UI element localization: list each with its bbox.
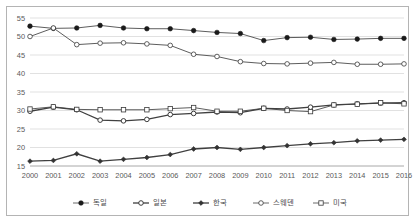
data-point-marker bbox=[355, 102, 359, 106]
y-axis-tick-label: 40 bbox=[17, 69, 25, 78]
data-point-marker bbox=[308, 109, 312, 113]
data-point-marker bbox=[402, 62, 407, 67]
legend-label: 스웨덴 bbox=[273, 198, 294, 207]
x-axis-tick-label: 2004 bbox=[115, 171, 131, 180]
x-axis-tick-label: 2009 bbox=[232, 171, 248, 180]
data-point-marker bbox=[262, 106, 266, 110]
legend-item-미국[interactable]: 미국 bbox=[313, 198, 347, 207]
data-point-marker bbox=[28, 107, 32, 111]
x-axis-tick-label: 2014 bbox=[349, 171, 365, 180]
data-point-marker bbox=[402, 36, 407, 41]
data-point-marker bbox=[74, 151, 79, 156]
data-point-marker bbox=[308, 105, 313, 110]
y-axis-tick-label: 15 bbox=[17, 162, 25, 171]
legend-item-스웨덴[interactable]: 스웨덴 bbox=[253, 198, 294, 207]
legend-item-독일[interactable]: 독일 bbox=[73, 198, 107, 207]
data-point-marker bbox=[168, 43, 173, 48]
data-point-marker bbox=[402, 137, 407, 142]
x-axis-tick-label: 2005 bbox=[139, 171, 155, 180]
data-point-marker bbox=[98, 23, 103, 28]
data-point-marker bbox=[139, 201, 144, 206]
data-point-marker bbox=[215, 109, 219, 113]
data-point-marker bbox=[51, 158, 56, 163]
data-point-marker bbox=[28, 159, 33, 164]
data-point-marker bbox=[28, 34, 33, 39]
data-point-marker bbox=[98, 41, 103, 46]
data-point-marker bbox=[145, 117, 150, 122]
x-axis-tick-label: 2013 bbox=[326, 171, 342, 180]
data-point-marker bbox=[238, 109, 242, 113]
data-point-marker bbox=[215, 54, 220, 59]
data-point-marker bbox=[378, 62, 383, 67]
line-chart-plot: 1520253035404550552000200120022003200420… bbox=[0, 0, 415, 222]
data-point-marker bbox=[121, 108, 125, 112]
legend-item-일본[interactable]: 일본 bbox=[133, 198, 167, 207]
data-point-marker bbox=[355, 37, 360, 42]
data-point-marker bbox=[98, 159, 103, 164]
data-point-marker bbox=[402, 102, 406, 106]
x-axis-tick-label: 2016 bbox=[396, 171, 412, 180]
data-point-marker bbox=[144, 155, 149, 160]
legend-label: 미국 bbox=[333, 198, 347, 207]
data-point-marker bbox=[261, 145, 266, 150]
data-point-marker bbox=[378, 101, 382, 105]
data-point-marker bbox=[285, 62, 290, 67]
data-point-marker bbox=[261, 38, 266, 43]
data-point-marker bbox=[28, 24, 33, 29]
x-axis-tick-label: 2006 bbox=[162, 171, 178, 180]
data-point-marker bbox=[121, 40, 126, 45]
data-point-marker bbox=[332, 60, 337, 65]
data-point-marker bbox=[191, 28, 196, 33]
y-axis-tick-label: 25 bbox=[17, 125, 25, 134]
y-axis-tick-label: 50 bbox=[17, 32, 25, 41]
data-point-marker bbox=[168, 106, 172, 110]
legend-label: 독일 bbox=[93, 198, 107, 207]
legend-label: 한국 bbox=[213, 198, 227, 207]
x-axis-tick-label: 2015 bbox=[372, 171, 388, 180]
data-point-marker bbox=[168, 112, 173, 117]
legend-item-한국[interactable]: 한국 bbox=[193, 198, 227, 207]
data-point-marker bbox=[238, 59, 243, 64]
data-point-marker bbox=[332, 103, 336, 107]
data-point-marker bbox=[238, 31, 243, 36]
x-axis-tick-label: 2000 bbox=[22, 171, 38, 180]
data-point-marker bbox=[145, 26, 150, 31]
data-point-marker bbox=[168, 152, 173, 157]
x-axis-tick-label: 2001 bbox=[45, 171, 61, 180]
x-axis-tick-label: 2003 bbox=[92, 171, 108, 180]
data-point-marker bbox=[168, 26, 173, 31]
data-point-marker bbox=[98, 108, 102, 112]
x-axis-tick-label: 2010 bbox=[256, 171, 272, 180]
chart-container: 1520253035404550552000200120022003200420… bbox=[0, 0, 415, 222]
data-point-marker bbox=[51, 26, 56, 31]
data-point-marker bbox=[355, 138, 360, 143]
x-axis-tick-label: 2012 bbox=[302, 171, 318, 180]
series-독일 bbox=[28, 23, 407, 43]
data-point-marker bbox=[285, 108, 289, 112]
data-point-marker bbox=[79, 201, 84, 206]
data-point-marker bbox=[121, 26, 126, 31]
data-point-marker bbox=[145, 108, 149, 112]
x-axis-tick-label: 2007 bbox=[185, 171, 201, 180]
data-point-marker bbox=[308, 61, 313, 66]
y-axis-tick-label: 20 bbox=[17, 143, 25, 152]
y-axis-tick-label: 35 bbox=[17, 88, 25, 97]
data-point-marker bbox=[319, 201, 323, 205]
y-axis-tick-label: 55 bbox=[17, 14, 25, 23]
data-point-marker bbox=[199, 201, 204, 206]
series-한국 bbox=[28, 137, 407, 164]
series-미국 bbox=[28, 101, 406, 114]
data-point-marker bbox=[215, 30, 220, 35]
data-point-marker bbox=[259, 201, 264, 206]
data-point-marker bbox=[51, 105, 55, 109]
data-point-marker bbox=[332, 37, 337, 42]
y-axis-tick-label: 45 bbox=[17, 51, 25, 60]
data-point-marker bbox=[98, 118, 103, 123]
data-point-marker bbox=[215, 145, 220, 150]
legend-label: 일본 bbox=[153, 198, 167, 207]
data-point-marker bbox=[191, 105, 195, 109]
y-axis-tick-label: 30 bbox=[17, 106, 25, 115]
data-point-marker bbox=[75, 107, 79, 111]
x-axis-tick-label: 2002 bbox=[69, 171, 85, 180]
data-point-marker bbox=[378, 138, 383, 143]
